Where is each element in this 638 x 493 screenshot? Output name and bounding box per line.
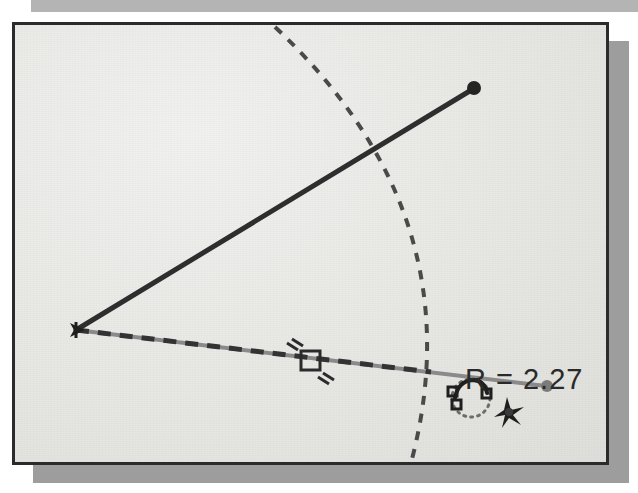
upper-line-endpoint-dot[interactable] bbox=[467, 81, 481, 95]
cad-viewport-frame[interactable]: R = 2.27 bbox=[12, 22, 609, 465]
screenshot-root: R = 2.27 bbox=[0, 0, 638, 493]
upper-construction-line[interactable] bbox=[76, 89, 473, 330]
radius-arc[interactable] bbox=[275, 27, 427, 459]
radius-dimension-label[interactable]: R = 2.27 bbox=[465, 363, 583, 396]
sketch-canvas[interactable] bbox=[15, 25, 606, 462]
page-top-band bbox=[31, 0, 638, 12]
pan-cursor bbox=[494, 397, 524, 428]
